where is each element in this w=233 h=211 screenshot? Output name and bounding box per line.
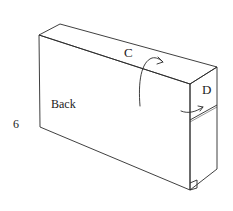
back-face (39, 35, 190, 190)
label-c: C (124, 45, 133, 60)
end-face-divider-2 (190, 107, 217, 122)
label-back: Back (51, 97, 76, 111)
label-d: D (202, 82, 211, 97)
step-number: 6 (13, 117, 19, 131)
fold-arrow-d (181, 107, 203, 112)
end-face-divider (190, 105, 217, 120)
fold-arrow-c (139, 58, 163, 106)
box-diagram: C D Back 6 (0, 0, 233, 211)
